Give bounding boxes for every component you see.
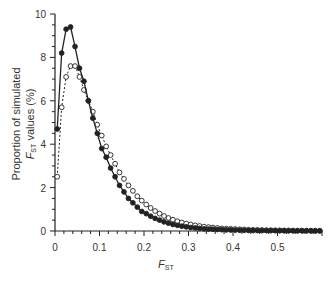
open-data-point (157, 211, 162, 216)
open-data-point (77, 75, 82, 80)
y-tick-label: 2 (40, 183, 46, 194)
filled-data-point (135, 205, 140, 210)
filled-series-line (57, 27, 320, 231)
filled-data-point (73, 44, 78, 49)
fst-distribution-chart: 024681000.10.20.30.40.5 Proportion of si… (0, 0, 328, 281)
open-data-point (117, 170, 122, 175)
y-tick-label: 8 (40, 52, 46, 63)
filled-data-point (77, 66, 82, 71)
series-filled-circles (55, 25, 322, 234)
open-data-point (126, 183, 131, 188)
y-axis-title-line1: Proportion of simulated (10, 67, 22, 180)
series-open-circles (55, 64, 322, 233)
y-tick-label: 0 (40, 226, 46, 237)
open-data-point (135, 194, 140, 199)
open-data-point (59, 105, 64, 110)
filled-data-point (82, 79, 87, 84)
open-data-point (139, 198, 144, 203)
filled-data-point (175, 223, 180, 228)
filled-data-point (108, 166, 113, 171)
filled-data-point (99, 146, 104, 151)
filled-data-point (122, 190, 127, 195)
x-tick-label: 0.2 (137, 242, 151, 253)
x-tick-label: 0.1 (93, 242, 107, 253)
filled-data-point (90, 116, 95, 121)
x-tick-label: 0.5 (271, 242, 285, 253)
x-tick-label: 0 (52, 242, 58, 253)
filled-data-point (55, 127, 60, 132)
y-tick-label: 4 (40, 139, 46, 150)
filled-data-point (104, 155, 109, 160)
filled-data-point (144, 211, 149, 216)
open-data-point (153, 209, 158, 214)
filled-data-point (68, 25, 73, 30)
y-tick-label: 10 (35, 9, 47, 20)
open-data-point (55, 174, 60, 179)
filled-data-point (117, 183, 122, 188)
x-axis-title: FST (158, 258, 174, 271)
filled-data-point (126, 196, 131, 201)
filled-data-point (130, 200, 135, 205)
x-tick-label: 0.4 (226, 242, 240, 253)
axes: 024681000.10.20.30.40.5 (35, 9, 322, 253)
filled-data-point (86, 98, 91, 103)
open-series-line (57, 66, 320, 231)
filled-data-point (113, 174, 118, 179)
filled-data-point (95, 131, 100, 136)
y-axis-title: Proportion of simulated FST values (%) (10, 67, 37, 180)
open-data-point (144, 202, 149, 207)
open-data-point (122, 177, 127, 182)
filled-data-point (317, 229, 322, 234)
open-data-point (148, 206, 153, 211)
y-tick-label: 6 (40, 96, 46, 107)
filled-data-point (59, 51, 64, 56)
open-data-point (113, 161, 118, 166)
y-axis-title-line2: FST values (%) (24, 89, 37, 160)
open-data-point (130, 188, 135, 193)
filled-data-point (171, 222, 176, 227)
open-data-point (64, 75, 69, 80)
x-tick-label: 0.3 (182, 242, 196, 253)
